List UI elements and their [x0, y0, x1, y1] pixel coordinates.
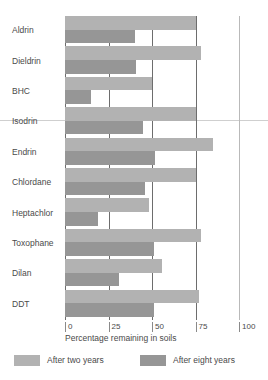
x-axis-label: Percentage remaining in soils: [65, 333, 177, 344]
x-tick-50: 50: [152, 322, 164, 332]
category-label: Dilan: [0, 269, 54, 278]
category-label: DDT: [0, 300, 54, 309]
bar-slot: [65, 242, 239, 256]
bar: [65, 229, 201, 243]
bar: [65, 198, 149, 212]
legend-item-two-years: After two years: [14, 354, 104, 366]
bar: [65, 303, 154, 317]
bar-group: [65, 46, 239, 73]
bar-slot: [65, 273, 239, 287]
legend-swatch-two-years-icon: [14, 355, 40, 366]
category-label: Chlordane: [0, 178, 54, 187]
bar-groups: [65, 16, 239, 320]
category-label: Isodrin: [0, 117, 54, 126]
bar: [65, 168, 196, 182]
category-label: Toxophane: [0, 239, 54, 248]
bar-group: [65, 16, 239, 43]
x-tick-100: 100: [239, 322, 255, 332]
legend-item-eight-years: After eight years: [140, 354, 235, 366]
x-tick-0: 0: [65, 322, 72, 332]
bar: [65, 182, 145, 196]
bar: [65, 273, 119, 287]
bar-slot: [65, 151, 239, 165]
bar-group: [65, 168, 239, 195]
bar-group: [65, 290, 239, 317]
category-label: BHC: [0, 87, 54, 96]
bar: [65, 107, 196, 121]
bar-group: [65, 259, 239, 286]
bar-chart-figure: AldrinDieldrinBHCIsodrinEndrinChlordaneH…: [0, 0, 268, 380]
bar-slot: [65, 46, 239, 60]
bar-slot: [65, 290, 239, 304]
category-label: Endrin: [0, 148, 54, 157]
bar-slot: [65, 121, 239, 135]
bar-slot: [65, 168, 239, 182]
gridline-100: [239, 16, 240, 320]
bar: [65, 30, 135, 44]
bar-slot: [65, 212, 239, 226]
bar: [65, 60, 136, 74]
bar-slot: [65, 303, 239, 317]
bar: [65, 259, 162, 273]
bar-group: [65, 138, 239, 165]
bar-slot: [65, 60, 239, 74]
plot-area: [65, 16, 239, 320]
bar: [65, 121, 143, 135]
category-label: Heptachlor: [0, 209, 54, 218]
legend-label-eight-years: After eight years: [173, 355, 235, 366]
category-label: Aldrin: [0, 26, 54, 35]
x-tick-75: 75: [196, 322, 208, 332]
bar: [65, 151, 155, 165]
bar: [65, 77, 152, 91]
bar-slot: [65, 30, 239, 44]
bar-slot: [65, 198, 239, 212]
bar-slot: [65, 107, 239, 121]
bar-slot: [65, 138, 239, 152]
bar-group: [65, 198, 239, 225]
bar: [65, 90, 91, 104]
bar-group: [65, 107, 239, 134]
bar: [65, 16, 196, 30]
category-label: Dieldrin: [0, 57, 54, 66]
bar-slot: [65, 259, 239, 273]
bar-slot: [65, 77, 239, 91]
bar: [65, 212, 98, 226]
bar-slot: [65, 182, 239, 196]
bar-slot: [65, 90, 239, 104]
bar: [65, 242, 154, 256]
bar-slot: [65, 229, 239, 243]
bar-group: [65, 77, 239, 104]
x-tick-25: 25: [109, 322, 121, 332]
bar-slot: [65, 16, 239, 30]
category-axis-labels: AldrinDieldrinBHCIsodrinEndrinChlordaneH…: [0, 16, 62, 320]
chart-legend: After two years After eight years: [14, 354, 254, 368]
bar: [65, 46, 201, 60]
bar: [65, 138, 213, 152]
legend-label-two-years: After two years: [47, 355, 104, 366]
legend-swatch-eight-years-icon: [140, 355, 166, 366]
bar: [65, 290, 199, 304]
bar-group: [65, 229, 239, 256]
